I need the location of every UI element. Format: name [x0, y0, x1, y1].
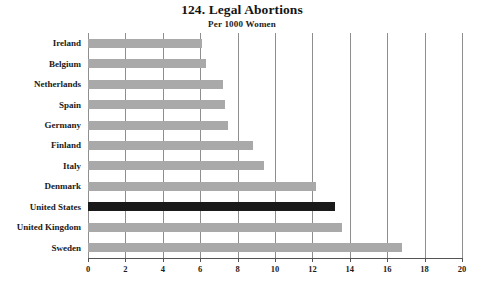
category-label-row: Denmark — [0, 176, 84, 196]
category-label-row: Finland — [0, 135, 84, 155]
bar — [88, 202, 335, 211]
bar — [88, 80, 223, 89]
bar-row — [88, 33, 462, 53]
bar-row — [88, 115, 462, 135]
bar-row — [88, 74, 462, 94]
x-axis-tick — [312, 258, 313, 262]
bar-row — [88, 197, 462, 217]
category-label: United Kingdom — [17, 222, 81, 232]
category-label-row: Belgium — [0, 53, 84, 73]
category-label-row: United Kingdom — [0, 217, 84, 237]
x-axis-tick-label: 2 — [123, 264, 127, 274]
x-axis-tick-label: 18 — [420, 264, 429, 274]
plot-area — [88, 33, 462, 258]
x-axis-tick — [200, 258, 201, 262]
x-axis-tick-label: 20 — [458, 264, 467, 274]
chart-subtitle: Per 1000 Women — [0, 19, 484, 29]
bar-row — [88, 135, 462, 155]
x-axis-tick-label: 6 — [198, 264, 202, 274]
bar — [88, 161, 264, 170]
category-label: Finland — [51, 140, 81, 150]
x-axis-tick — [350, 258, 351, 262]
category-label-row: Spain — [0, 94, 84, 114]
bar — [88, 100, 225, 109]
bar-row — [88, 156, 462, 176]
bar-row — [88, 217, 462, 237]
bar-row — [88, 176, 462, 196]
x-axis-tick — [88, 258, 89, 262]
bar — [88, 223, 342, 232]
x-axis-tick — [125, 258, 126, 262]
category-label: Sweden — [51, 243, 81, 253]
bar — [88, 141, 253, 150]
x-axis-tick — [163, 258, 164, 262]
chart-container: 124. Legal Abortions Per 1000 Women Irel… — [0, 0, 484, 289]
bar — [88, 121, 228, 130]
x-axis-tick-label: 4 — [161, 264, 165, 274]
x-axis-tick — [462, 258, 463, 262]
x-axis-tick-label: 8 — [235, 264, 239, 274]
bar — [88, 182, 316, 191]
x-axis-tick-label: 14 — [346, 264, 355, 274]
bar — [88, 243, 402, 252]
category-label: Italy — [63, 161, 81, 171]
x-axis-tick — [425, 258, 426, 262]
bar-row — [88, 53, 462, 73]
category-label-row: Italy — [0, 156, 84, 176]
category-label: Spain — [59, 100, 81, 110]
bar — [88, 39, 202, 48]
category-label: Denmark — [45, 181, 82, 191]
category-label-row: Sweden — [0, 238, 84, 258]
category-label-row: Ireland — [0, 33, 84, 53]
x-axis-tick — [238, 258, 239, 262]
category-label-row: United States — [0, 197, 84, 217]
bar — [88, 59, 206, 68]
bar-row — [88, 94, 462, 114]
category-label-row: Germany — [0, 115, 84, 135]
bar-row — [88, 238, 462, 258]
x-axis-tick-label: 16 — [383, 264, 392, 274]
category-label: Belgium — [49, 59, 81, 69]
x-axis-tick-label: 10 — [271, 264, 280, 274]
chart-title: 124. Legal Abortions — [0, 2, 484, 18]
x-axis-tick-label: 0 — [86, 264, 90, 274]
category-label: United States — [30, 202, 81, 212]
category-label: Netherlands — [34, 79, 81, 89]
category-label: Germany — [45, 120, 82, 130]
x-axis-tick-label: 12 — [308, 264, 317, 274]
category-label-row: Netherlands — [0, 74, 84, 94]
category-label: Ireland — [53, 38, 81, 48]
gridline — [462, 33, 463, 258]
x-axis-tick — [275, 258, 276, 262]
x-axis-tick — [387, 258, 388, 262]
